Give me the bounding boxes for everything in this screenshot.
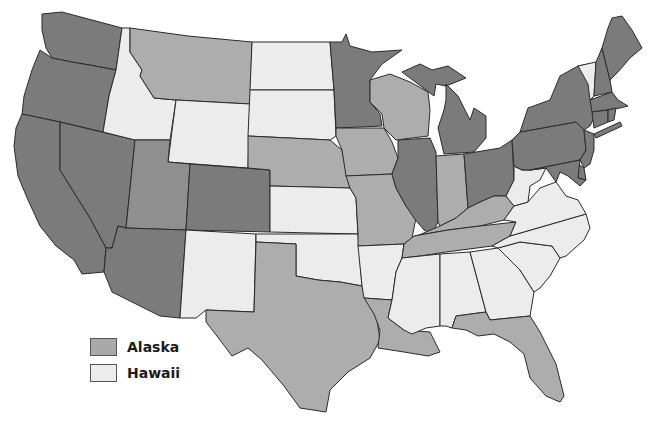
state-FL[interactable] [452,312,564,402]
state-NM[interactable] [180,230,256,318]
legend-label-hawaii: Hawaii [127,365,180,381]
legend-label-alaska: Alaska [127,339,179,355]
state-CT[interactable] [592,110,608,128]
legend-swatch-hawaii [90,364,117,382]
state-WY[interactable] [168,100,250,168]
state-KS[interactable] [270,186,358,234]
state-AZ[interactable] [104,226,186,318]
legend: Alaska Hawaii [90,335,180,387]
state-IA[interactable] [336,128,398,176]
state-ND[interactable] [250,42,334,90]
state-RI[interactable] [608,108,616,122]
legend-item-hawaii: Hawaii [90,361,180,385]
state-ME[interactable] [602,16,642,80]
legend-item-alaska: Alaska [90,335,180,359]
legend-swatch-alaska [90,338,117,356]
state-SD[interactable] [248,90,336,140]
state-CO[interactable] [186,164,270,232]
